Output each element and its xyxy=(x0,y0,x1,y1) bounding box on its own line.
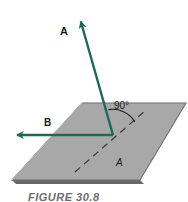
plane-shadow xyxy=(12,180,144,184)
vector-a-label: A xyxy=(60,26,68,37)
plane-label: A xyxy=(116,158,123,168)
vector-plane-diagram xyxy=(0,0,188,202)
right-angle-label: 90° xyxy=(114,101,129,111)
figure-container: A B 90° A FIGURE 30.8 xyxy=(0,0,188,202)
figure-caption: FIGURE 30.8 xyxy=(28,191,100,202)
plane-surface xyxy=(12,103,186,180)
vector-b-label: B xyxy=(44,118,51,128)
